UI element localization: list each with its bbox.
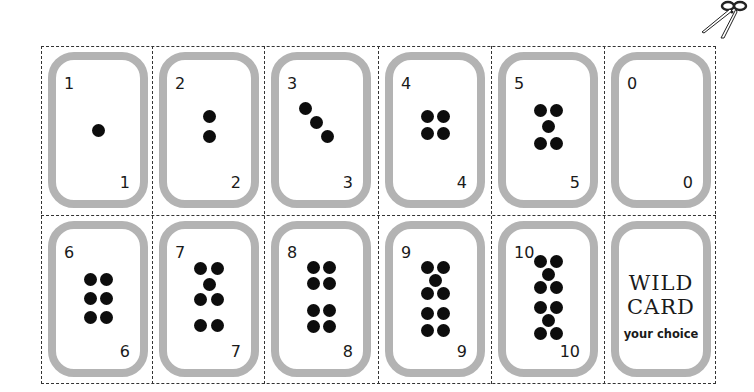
pip-dot [421,110,434,123]
pip-dot [203,278,216,291]
number-card-9: 99 [385,221,485,377]
pip-dot [323,304,336,317]
card-bottom-label: 2 [231,173,241,192]
number-card-0: 00 [611,52,711,208]
pip-dot [550,301,563,314]
pip-dot [421,287,434,300]
pip-dot [534,281,547,294]
pip-dot [421,307,434,320]
pip-dot [421,261,434,274]
pip-dot [550,104,563,117]
scissors-icon [690,0,750,44]
card-bottom-label: 0 [683,173,693,192]
pip-dot [194,319,207,332]
pip-dot [550,327,563,340]
pip-dot [307,261,320,274]
pip-dot [323,277,336,290]
card-bottom-label: 5 [570,173,580,192]
pip-dot [211,293,224,306]
pip-dot [310,116,323,129]
card-bottom-label: 9 [457,342,467,361]
pip-dot [550,281,563,294]
pip-dot [437,261,450,274]
wild-card-line1: WILD [619,271,703,295]
pip-dot [534,104,547,117]
pip-dot [211,262,224,275]
card-cell-10: 1010 [491,215,604,384]
number-card-6: 66 [48,221,148,377]
pip-dot [307,277,320,290]
pip-dot [542,314,555,327]
card-cell-1: 11 [41,46,154,215]
pip-dot [307,320,320,333]
wild-card-line3: your choice [619,327,703,341]
pip-dot [542,120,555,133]
number-card-3: 33 [271,52,371,208]
number-card-1: 11 [48,52,148,208]
card-cell-5: 55 [491,46,604,215]
pip-dot [437,287,450,300]
pip-dot [194,262,207,275]
pip-dot [429,274,442,287]
pip-dot [84,273,97,286]
pip-dot [421,127,434,140]
pip-dot [534,255,547,268]
pip-dot [203,110,216,123]
pip-dot [437,110,450,123]
pip-dot [307,304,320,317]
card-cell-3: 33 [264,46,377,215]
pip-dot [437,127,450,140]
pip-dot [534,301,547,314]
card-bottom-label: 6 [120,342,130,361]
pip-dot [211,319,224,332]
card-cell-2: 22 [152,46,265,215]
pip-dot [437,307,450,320]
pip-dot [542,268,555,281]
card-bottom-label: 3 [343,173,353,192]
pip-dot [84,292,97,305]
pip-dot [203,130,216,143]
card-cell-0: 00 [604,46,717,215]
card-bottom-label: 4 [457,173,467,192]
pip-dot [321,130,334,143]
number-card-2: 22 [159,52,259,208]
pip-dot [550,137,563,150]
pip-dot [100,292,113,305]
pip-dot [534,327,547,340]
wild-card-line2: CARD [619,295,703,319]
card-cell-4: 44 [378,46,491,215]
card-bottom-label: 10 [560,342,580,361]
card-bottom-label: 7 [231,342,241,361]
pip-dot [100,311,113,324]
card-cell-8: 88 [264,215,377,384]
pip-dot [323,320,336,333]
pip-dot [84,311,97,324]
wild-card: WILDCARDyour choice [611,221,711,377]
number-card-7: 77 [159,221,259,377]
card-cell-6: 66 [41,215,154,384]
pip-dot [299,102,312,115]
pip-dot [92,124,105,137]
pip-dot [100,273,113,286]
pip-dot [421,324,434,337]
number-card-10: 1010 [498,221,598,377]
pip-dot [550,255,563,268]
card-cell-9: 99 [378,215,491,384]
wild-card-cell: WILDCARDyour choice [604,215,717,384]
number-card-4: 44 [385,52,485,208]
card-bottom-label: 8 [343,342,353,361]
pip-dot [194,293,207,306]
pip-dot [323,261,336,274]
pip-dot [437,324,450,337]
card-cell-7: 77 [152,215,265,384]
pip-dot [534,137,547,150]
number-card-5: 55 [498,52,598,208]
card-bottom-label: 1 [120,173,130,192]
number-card-8: 88 [271,221,371,377]
